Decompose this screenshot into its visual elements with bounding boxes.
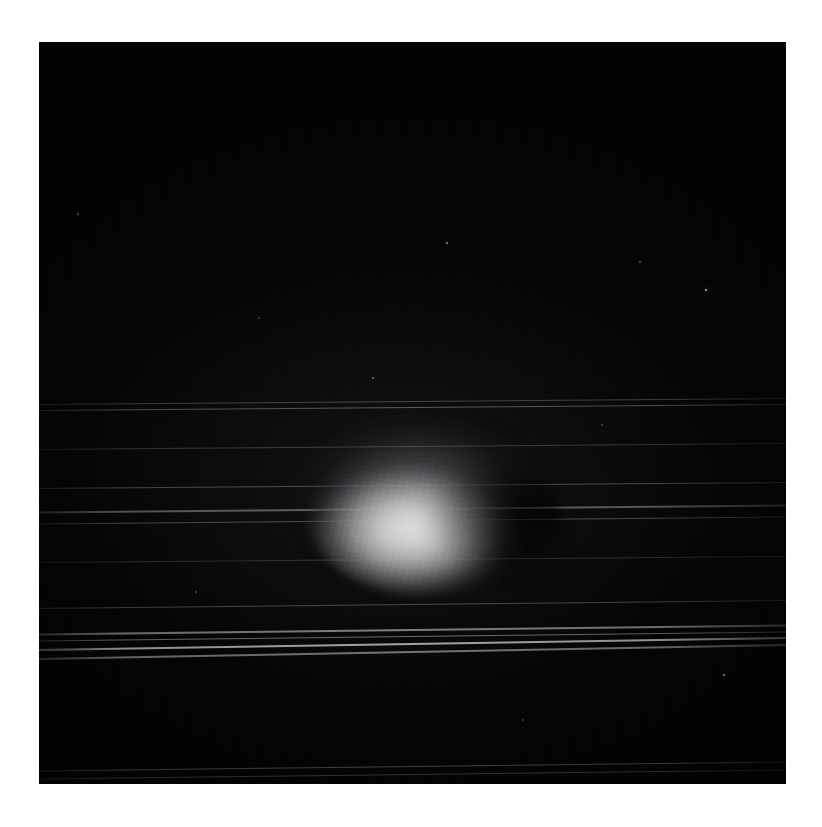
sky-background [39, 42, 786, 784]
astronomical-image [39, 42, 786, 784]
page-canvas [0, 0, 822, 827]
